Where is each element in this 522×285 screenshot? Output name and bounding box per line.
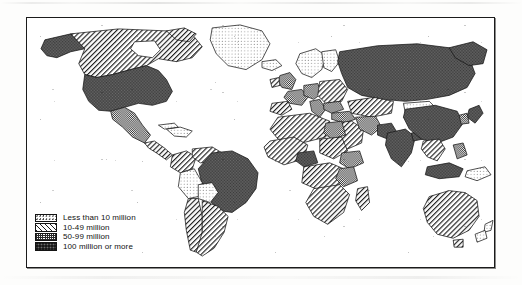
region-balkans bbox=[324, 101, 344, 113]
region-spain bbox=[270, 101, 292, 115]
legend-swatch-checker-icon bbox=[35, 233, 57, 242]
legend-label: Less than 10 million bbox=[63, 213, 136, 223]
region-new-guinea bbox=[465, 167, 491, 181]
region-ireland bbox=[270, 78, 280, 88]
legend-item: 50-99 million bbox=[35, 232, 136, 242]
region-central-america bbox=[144, 141, 172, 160]
region-iceland bbox=[262, 60, 282, 71]
legend-label: 50-99 million bbox=[63, 232, 110, 242]
region-eastern-europe bbox=[318, 80, 348, 104]
scan-artifact-top bbox=[0, 2, 522, 4]
region-united-kingdom bbox=[278, 73, 296, 90]
legend-item: Less than 10 million bbox=[35, 213, 136, 223]
region-scandinavia bbox=[296, 49, 326, 78]
legend-swatch-solid-icon bbox=[35, 242, 57, 251]
legend-item: 10-49 million bbox=[35, 223, 136, 233]
region-new-zealand-south bbox=[475, 230, 487, 242]
legend-swatch-stipple-icon bbox=[35, 214, 57, 223]
region-philippines bbox=[453, 143, 467, 159]
region-finland bbox=[322, 50, 340, 72]
region-north-africa bbox=[270, 113, 330, 143]
region-madagascar bbox=[356, 187, 370, 211]
region-indonesia bbox=[425, 163, 463, 179]
region-ethiopia bbox=[340, 151, 364, 169]
region-southern-africa bbox=[306, 185, 350, 225]
region-egypt bbox=[324, 121, 346, 139]
population-legend: Less than 10 million 10-49 million 50-99… bbox=[32, 210, 140, 254]
legend-label: 10-49 million bbox=[63, 223, 110, 233]
legend-swatch-hatch-icon bbox=[35, 223, 57, 232]
region-india bbox=[385, 129, 415, 167]
region-southeast-asia bbox=[421, 139, 445, 161]
region-japan bbox=[467, 105, 483, 123]
scan-artifact-bottom bbox=[0, 276, 522, 279]
region-australia bbox=[423, 191, 479, 239]
region-korea bbox=[459, 113, 469, 124]
population-map-figure: Less than 10 million 10-49 million 50-99… bbox=[0, 0, 522, 285]
legend-item: 100 million or more bbox=[35, 242, 136, 252]
region-mexico bbox=[111, 107, 151, 143]
region-tasmania bbox=[453, 239, 463, 247]
region-greenland bbox=[210, 25, 270, 70]
region-kazakhstan bbox=[348, 97, 394, 117]
map-border-frame: Less than 10 million 10-49 million 50-99… bbox=[26, 17, 495, 268]
legend-label: 100 million or more bbox=[63, 242, 133, 252]
region-nigeria bbox=[296, 151, 318, 167]
